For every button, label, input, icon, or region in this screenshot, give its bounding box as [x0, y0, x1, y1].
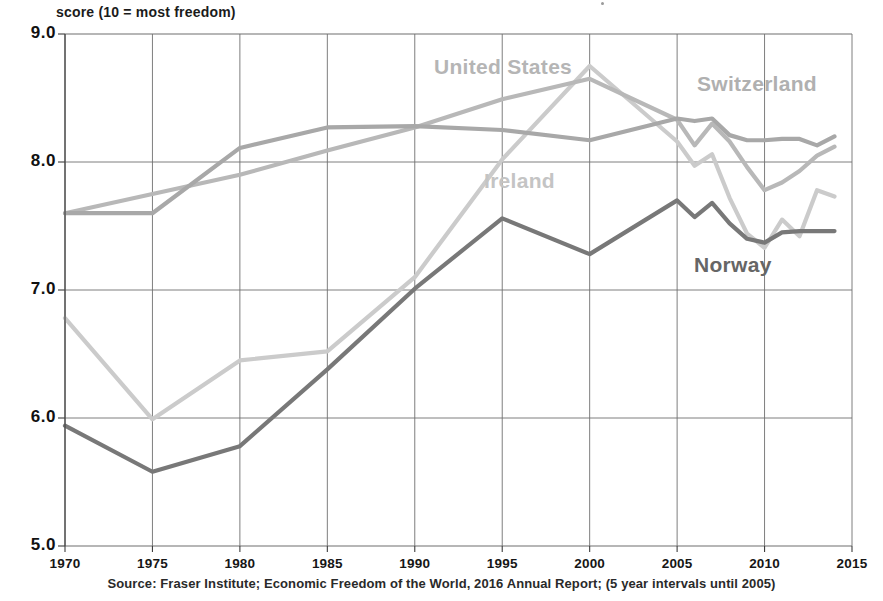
x-tick-label: 1995 — [472, 556, 532, 571]
axis-frame — [58, 34, 852, 552]
x-tick-label: 1980 — [210, 556, 270, 571]
series-label-ireland: Ireland — [484, 169, 555, 193]
x-tick-label: 1985 — [297, 556, 357, 571]
y-tick-label: 6.0 — [4, 407, 56, 427]
series-label-norway: Norway — [694, 253, 772, 277]
x-tick-label: 2005 — [647, 556, 707, 571]
y-tick-label: 9.0 — [4, 23, 56, 43]
x-tick-label: 2000 — [560, 556, 620, 571]
x-tick-label: 1970 — [35, 556, 95, 571]
x-tick-label: 2010 — [735, 556, 795, 571]
x-tick-label: 1975 — [122, 556, 182, 571]
source-note: Source: Fraser Institute; Economic Freed… — [0, 576, 883, 591]
series-line-ireland — [65, 66, 835, 419]
grid-layer — [65, 34, 852, 546]
y-tick-label: 5.0 — [4, 535, 56, 555]
series-label-switzerland: Switzerland — [697, 72, 817, 96]
series-line-norway — [65, 200, 835, 471]
y-tick-label: 8.0 — [4, 151, 56, 171]
chart-page: score (10 = most freedom) 9.08.07.06.05.… — [0, 0, 883, 601]
series-label-united-states: United States — [434, 55, 572, 79]
y-tick-label: 7.0 — [4, 279, 56, 299]
x-tick-label: 2015 — [822, 556, 882, 571]
x-tick-label: 1990 — [385, 556, 445, 571]
